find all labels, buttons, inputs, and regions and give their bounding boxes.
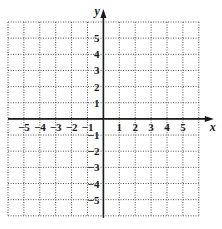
y-tick-label: 5: [94, 32, 100, 44]
y-tick-label: 1: [94, 97, 100, 109]
x-tick-label: −2: [66, 121, 78, 133]
y-tick-label: 4: [94, 48, 100, 60]
x-tick-label: 1: [117, 121, 123, 133]
y-tick-label: −3: [88, 161, 100, 173]
y-tick-label: −5: [88, 194, 100, 206]
x-tick-label: 5: [180, 121, 186, 133]
x-tick-label: −4: [34, 121, 46, 133]
x-tick-label: 4: [164, 121, 170, 133]
x-tick-label: 2: [132, 121, 138, 133]
coordinate-grid: −5−4−3−2−112345 54321−1−2−3−4−5 x y: [0, 0, 222, 229]
x-axis-label: x: [209, 120, 216, 134]
y-axis-label: y: [92, 4, 100, 18]
x-tick-label: −5: [18, 121, 30, 133]
y-tick-label: −1: [88, 129, 100, 141]
x-tick-labels: −5−4−3−2−112345: [18, 121, 186, 133]
y-tick-label: −2: [88, 145, 100, 157]
y-tick-label: 2: [94, 81, 100, 93]
y-tick-label: 3: [94, 64, 100, 76]
x-tick-label: −3: [50, 121, 62, 133]
y-tick-label: −4: [88, 178, 100, 190]
y-axis-arrow-icon: [100, 9, 106, 18]
x-tick-label: 3: [148, 121, 154, 133]
